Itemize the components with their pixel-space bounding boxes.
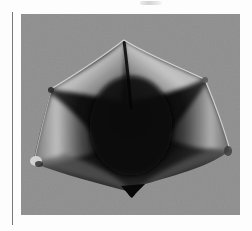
caption — [21, 215, 240, 225]
scanned-page — [0, 0, 252, 231]
specimen-image — [21, 14, 240, 215]
margin-rule — [12, 12, 13, 225]
scan-artifact — [140, 1, 162, 5]
specimen-photograph — [21, 14, 240, 215]
